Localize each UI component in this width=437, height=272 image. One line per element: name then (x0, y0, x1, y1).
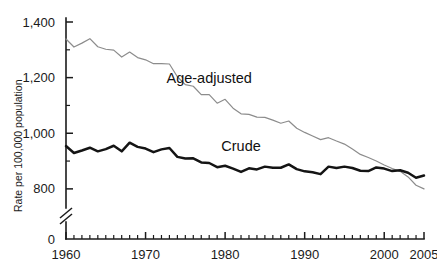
y-tick-label: 1,400 (22, 15, 55, 30)
x-tick-label: 1960 (52, 247, 81, 262)
series-label-age-adjusted: Age-adjusted (166, 70, 251, 86)
y-tick-label: 1,200 (22, 70, 55, 85)
series-label-crude: Crude (221, 138, 261, 154)
mortality-rate-line-chart: Rate per 100,000 population 8001,0001,20… (0, 0, 437, 272)
y-axis-title: Rate per 100,000 population (12, 79, 24, 212)
chart-figure: Rate per 100,000 population 8001,0001,20… (0, 0, 437, 272)
x-tick-label: 1980 (211, 247, 240, 262)
y-axis-title-label: Rate per 100,000 population (12, 79, 24, 212)
x-tick-label: 2000 (370, 247, 399, 262)
y-tick-label: 800 (33, 181, 55, 196)
y-zero-label: 0 (48, 232, 55, 247)
x-tick-label: 2005 (410, 247, 437, 262)
x-tick-label: 1970 (131, 247, 160, 262)
x-tick-label: 1990 (290, 247, 319, 262)
y-tick-label: 1,000 (22, 126, 55, 141)
